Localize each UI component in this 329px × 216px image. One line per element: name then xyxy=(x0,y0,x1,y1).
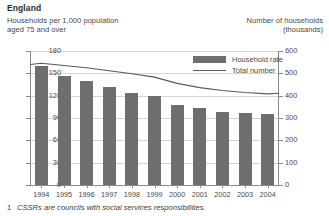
legend-line-swatch-icon xyxy=(193,70,226,71)
y-axis-right-tick xyxy=(279,185,283,186)
chart-country-title: England xyxy=(7,3,41,13)
right-axis-title-line1: Number of households xyxy=(247,16,323,25)
y-axis-right-tick-label: 0 xyxy=(285,181,311,188)
y-axis-right-tick xyxy=(279,140,283,141)
y-axis-right-tick-label: 600 xyxy=(285,47,311,54)
y-axis-right-tick xyxy=(279,96,283,97)
footnote-number: 1 xyxy=(7,203,17,212)
y-axis-right-tick xyxy=(279,163,283,164)
y-axis-right-tick-label: 200 xyxy=(285,136,311,143)
footnote: 1CSSRs are councils with social services… xyxy=(7,203,206,212)
y-axis-right-tick-label: 400 xyxy=(285,92,311,99)
legend-label-household-rate: Household rate xyxy=(232,54,283,65)
x-axis-tick-label: 2004 xyxy=(255,191,281,199)
legend-label-total-number: Total number xyxy=(232,65,275,76)
y-axis-right-tick-label: 500 xyxy=(285,69,311,76)
y-axis-right-tick xyxy=(279,118,283,119)
y-axis-right-tick xyxy=(279,51,283,52)
left-axis-title-line1: Households per 1,000 population xyxy=(7,16,118,25)
y-axis-right-tick-label: 300 xyxy=(285,114,311,121)
left-axis-title: Households per 1,000 population aged 75 … xyxy=(7,16,118,34)
left-axis-title-line2: aged 75 and over xyxy=(7,25,118,34)
y-axis-right-tick-label: 100 xyxy=(285,159,311,166)
right-axis-title: Number of households (thousands) xyxy=(247,16,323,34)
legend-bar-swatch-icon xyxy=(193,56,226,63)
footnote-text: CSSRs are councils with social services … xyxy=(17,203,206,212)
right-axis-title-line2: (thousands) xyxy=(247,25,323,34)
y-axis-right-tick xyxy=(279,73,283,74)
